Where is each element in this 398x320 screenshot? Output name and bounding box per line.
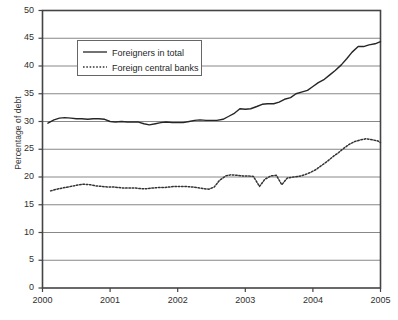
y-tick-label: 10 xyxy=(8,227,34,237)
y-tick-label: 5 xyxy=(8,254,34,264)
chart-figure: Percentage of debt 05101520253035404550 … xyxy=(0,0,398,320)
x-tick-label: 2000 xyxy=(23,295,63,305)
x-tick-label: 2002 xyxy=(158,295,198,305)
series-line-2 xyxy=(51,139,381,191)
y-tick-label: 15 xyxy=(8,199,34,209)
y-tick-label: 20 xyxy=(8,171,34,181)
y-tick-label: 35 xyxy=(8,88,34,98)
y-tick-label: 45 xyxy=(8,32,34,42)
plot-canvas: Foreigners in totalForeign central banks xyxy=(0,0,398,320)
x-tick-label: 2004 xyxy=(293,295,333,305)
y-tick-label: 0 xyxy=(8,282,34,292)
x-tick-label: 2003 xyxy=(225,295,265,305)
y-tick-label: 25 xyxy=(8,143,34,153)
legend-label-1: Foreigners in total xyxy=(112,48,184,58)
y-tick-label: 40 xyxy=(8,60,34,70)
y-tick-label: 30 xyxy=(8,116,34,126)
x-tick-label: 2005 xyxy=(361,295,398,305)
x-tick-label: 2001 xyxy=(90,295,130,305)
chart-legend[interactable]: Foreigners in totalForeign central banks xyxy=(78,41,202,76)
y-axis-title: Percentage of debt xyxy=(13,63,23,203)
legend-label-2: Foreign central banks xyxy=(112,63,199,73)
y-tick-label: 50 xyxy=(8,5,34,15)
